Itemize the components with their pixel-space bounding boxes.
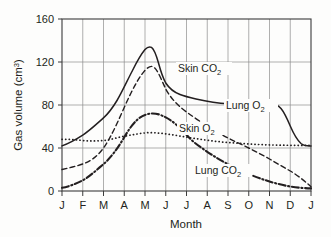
y-axis-tick-labels: 160 120 80 40 0: [36, 13, 54, 197]
x-tick-label-1: F: [79, 199, 86, 211]
series-label-skin-o2: Skin O2: [177, 122, 225, 137]
series-label-lung-o2-subscript: 2: [260, 105, 264, 114]
chart-figure: 160 120 80 40 0 J F M A M J J A S O N D …: [0, 0, 331, 237]
y-axis-title-close: ): [12, 59, 24, 63]
x-tick-label-9: O: [244, 199, 253, 211]
series-label-skin-co2-text: Skin CO: [178, 62, 217, 74]
x-tick-label-12: J: [308, 199, 314, 211]
svg-text:Gas volume (cm3): Gas volume (cm3): [12, 59, 25, 151]
x-axis-tick-labels: J F M A M J J A S O N D J: [59, 199, 314, 211]
series-label-skin-co2-subscript: 2: [217, 68, 221, 77]
gas-volume-line-chart: 160 120 80 40 0 J F M A M J J A S O N D …: [0, 0, 331, 237]
x-tick-label-0: J: [59, 199, 65, 211]
y-axis-title-main: Gas volume (cm: [12, 67, 24, 151]
series-label-skin-o2-text: Skin O: [179, 122, 211, 134]
y-axis-tickmarks: [58, 19, 62, 191]
x-tick-label-3: A: [121, 199, 129, 211]
x-tick-label-11: D: [286, 199, 294, 211]
x-tick-label-10: N: [266, 199, 274, 211]
x-tick-label-2: M: [99, 199, 108, 211]
series-label-skin-co2: Skin CO2: [176, 62, 232, 77]
series-label-skin-o2-subscript: 2: [211, 128, 215, 137]
y-tick-label-120: 120: [36, 56, 54, 68]
x-axis-tickmarks: [62, 191, 311, 196]
x-tick-label-5: J: [163, 199, 169, 211]
series-label-lung-co2-text: Lung CO: [195, 164, 237, 176]
series-label-lung-co2-subscript: 2: [237, 170, 241, 179]
x-tick-label-4: M: [140, 199, 149, 211]
y-tick-label-160: 160: [36, 13, 54, 25]
series-label-lung-co2: Lung CO2: [193, 164, 252, 179]
x-tick-label-7: A: [204, 199, 212, 211]
y-tick-label-0: 0: [48, 185, 54, 197]
series-label-lung-o2: Lung O2: [224, 99, 278, 114]
x-tick-label-6: J: [184, 199, 190, 211]
y-tick-label-40: 40: [42, 142, 54, 154]
x-axis-title: Month: [170, 218, 202, 230]
x-tick-label-8: S: [224, 199, 231, 211]
series-label-lung-o2-text: Lung O: [226, 99, 260, 111]
y-tick-label-80: 80: [42, 99, 54, 111]
y-axis-title: Gas volume (cm3): [12, 59, 25, 151]
